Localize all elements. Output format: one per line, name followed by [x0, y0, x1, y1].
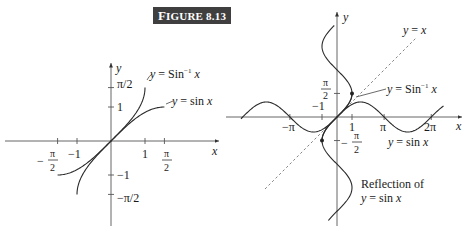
left-y-tick-label-neg1: −1 [117, 168, 130, 182]
left-arcsin-label: y = Sin−1 x [149, 67, 201, 81]
svg-text:π: π [323, 77, 328, 88]
left-x-axis-label: x [211, 144, 218, 158]
svg-text:π: π [50, 148, 55, 159]
left-sin-label: y = sin x [171, 94, 213, 108]
right-point-lower [320, 139, 324, 143]
right-identity-label: y = x [402, 23, 427, 37]
svg-text:−: − [37, 154, 44, 168]
left-y-axis-label: y [115, 61, 122, 75]
svg-text:2: 2 [164, 162, 169, 173]
right-x-tick-label-neg1: −1 [312, 99, 325, 113]
left-plot: x y − π 2 −1 1 π 2 π/2 1 −1 −π/2 y = Sin… [5, 61, 219, 226]
right-sin-label: y = sin x [387, 135, 429, 149]
right-point-upper [350, 91, 354, 95]
figure-canvas: x y − π 2 −1 1 π 2 π/2 1 −1 −π/2 y = Sin… [0, 0, 466, 227]
left-x-tick-label-neg-pi-2: − π 2 [37, 148, 58, 173]
right-reflection-label-line2: y = sin x [360, 191, 402, 205]
left-y-tick-label-neg-pi-2: −π/2 [117, 191, 139, 205]
left-x-tick-label-1: 1 [142, 147, 148, 161]
left-y-tick-label-pi-2: π/2 [117, 77, 132, 91]
svg-text:2: 2 [323, 90, 328, 101]
right-y-axis-label: y [342, 10, 349, 24]
right-reflection-label-line1: Reflection of [361, 177, 424, 191]
svg-text:2: 2 [50, 162, 55, 173]
left-x-tick-label-pi-2: π 2 [162, 148, 172, 173]
right-plot: x y −π −1 1 π 2π π 2 − π 2 y = x y = Sin… [226, 10, 462, 226]
left-y-tick-label-1: 1 [117, 100, 123, 114]
right-x-axis-label: x [455, 119, 462, 133]
right-x-tick-label-pi: π [380, 120, 386, 134]
svg-text:π: π [354, 130, 359, 141]
svg-text:−: − [341, 136, 348, 150]
right-arcsin-label: y = Sin−1 x [386, 82, 438, 96]
right-y-tick-label-pi-2: π 2 [321, 77, 331, 101]
svg-text:2: 2 [354, 144, 359, 155]
left-x-tick-label-neg1: −1 [68, 147, 81, 161]
svg-text:π: π [164, 148, 169, 159]
right-x-tick-label-neg-pi: −π [282, 120, 295, 134]
